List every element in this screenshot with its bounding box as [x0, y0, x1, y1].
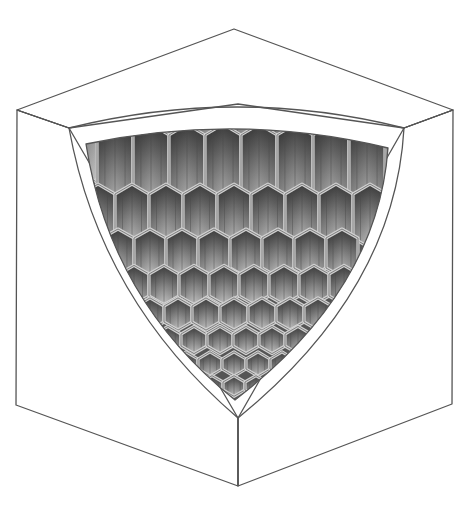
inner-edge-left	[17, 110, 69, 128]
inner-edge-right	[404, 110, 453, 128]
grain-cells	[77, 38, 387, 396]
cube-cutaway-figure	[0, 0, 475, 505]
grain-structure-diagram	[0, 0, 475, 505]
cube-top-face	[17, 29, 453, 128]
